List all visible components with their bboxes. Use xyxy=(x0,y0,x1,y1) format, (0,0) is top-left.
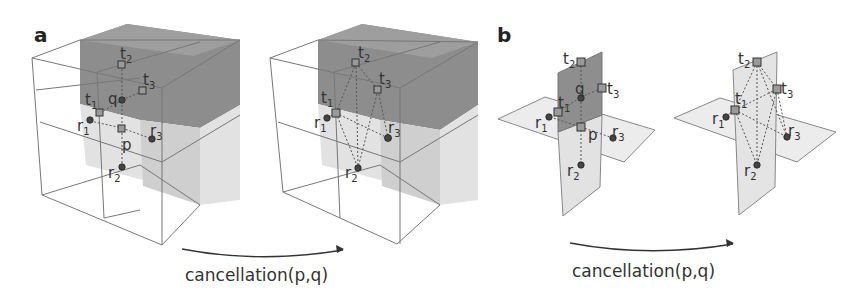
critical-cell-t2 xyxy=(753,58,761,66)
arrow-head-icon xyxy=(726,239,734,247)
panel-label-a: a xyxy=(34,23,48,47)
svg-text:t3: t3 xyxy=(607,80,619,100)
critical-cell-t3 xyxy=(773,85,781,93)
svg-text:p: p xyxy=(122,136,132,154)
critical-point-r2 xyxy=(355,165,361,171)
critical-point-r1 xyxy=(87,117,93,123)
panel-a-after: t2 t3 t1 r1 r3 r2 xyxy=(270,24,478,244)
critical-point-r1 xyxy=(324,115,330,121)
critical-cell-t3 xyxy=(598,84,606,92)
arrow-head-icon xyxy=(336,245,344,253)
panel-label-b: b xyxy=(497,23,511,47)
svg-text:t3: t3 xyxy=(781,80,793,100)
critical-point-r2 xyxy=(754,162,760,168)
panel-b-after: t2 t3 t1 r1 r3 r2 xyxy=(674,50,836,215)
critical-point-r2 xyxy=(578,162,584,168)
critical-cell-t2 xyxy=(577,58,585,66)
critical-cell-p xyxy=(118,125,125,132)
svg-text:t2: t2 xyxy=(738,50,750,70)
cancellation-label-a: cancellation(p,q) xyxy=(185,265,328,285)
critical-point-q xyxy=(119,97,125,103)
figure: a t2 t3 q xyxy=(0,0,861,302)
critical-cell-p xyxy=(577,123,585,131)
svg-text:q: q xyxy=(575,80,585,98)
critical-point-r2 xyxy=(119,164,125,170)
svg-text:q: q xyxy=(108,90,118,108)
svg-text:t2: t2 xyxy=(563,50,575,70)
svg-text:p: p xyxy=(588,126,598,144)
panel-a-before: t2 t3 q t1 r1 p r3 r2 xyxy=(32,24,240,245)
critical-cell-t1 xyxy=(332,109,340,117)
merged-vertical-plane xyxy=(733,52,777,215)
critical-point-r1 xyxy=(546,114,552,120)
panel-a-arrow xyxy=(182,245,344,257)
cancellation-label-b: cancellation(p,q) xyxy=(572,261,715,281)
panel-b-arrow xyxy=(570,239,734,251)
panel-b-before: t2 t3 q t1 r1 p r3 r2 xyxy=(498,50,655,216)
